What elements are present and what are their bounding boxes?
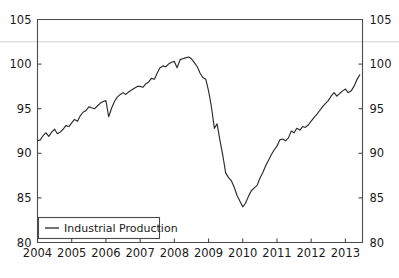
left-axis-label-95: 95 <box>17 102 32 116</box>
chart-canvas: 80859095100105 80859095100105 2004200520… <box>0 0 399 278</box>
left-axis-label-85: 85 <box>17 191 32 205</box>
right-axis-label-85: 85 <box>370 191 385 205</box>
x-axis-label-2008: 2008 <box>160 246 189 260</box>
x-axis-label-2009: 2009 <box>194 246 223 260</box>
right-axis-label-95: 95 <box>370 102 385 116</box>
x-axis-label-2006: 2006 <box>91 246 120 260</box>
x-axis-label-2004: 2004 <box>23 246 52 260</box>
x-axis-label-2012: 2012 <box>297 246 326 260</box>
right-axis-label-105: 105 <box>370 13 392 27</box>
x-axis-label-2011: 2011 <box>262 246 291 260</box>
right-axis-label-90: 90 <box>370 146 385 160</box>
left-axis-label-100: 100 <box>10 57 32 71</box>
left-axis-label-90: 90 <box>17 146 32 160</box>
x-axis-label-2005: 2005 <box>57 246 86 260</box>
x-axis-label-2013: 2013 <box>331 246 360 260</box>
left-axis-label-105: 105 <box>10 13 32 27</box>
x-axis-label-2007: 2007 <box>125 246 154 260</box>
industrial-production-chart: 80859095100105 80859095100105 2004200520… <box>0 0 399 278</box>
right-axis-label-80: 80 <box>370 236 385 250</box>
legend-label-industrial-production: Industrial Production <box>64 222 178 235</box>
x-axis-label-2010: 2010 <box>228 246 257 260</box>
right-axis-label-100: 100 <box>370 57 392 71</box>
chart-legend[interactable]: Industrial Production <box>39 218 178 239</box>
